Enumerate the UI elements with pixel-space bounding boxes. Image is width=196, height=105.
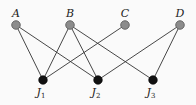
edge-B-J1 — [43, 25, 70, 80]
node-C — [121, 21, 130, 30]
edge-C-J1 — [43, 25, 125, 80]
node-D — [176, 21, 185, 30]
node-J1 — [39, 76, 48, 85]
nodes: ABCDJ1J2J3 — [11, 7, 185, 100]
node-label-J3: J3 — [145, 86, 156, 100]
edge-D-J3 — [153, 25, 180, 80]
node-B — [66, 21, 75, 30]
node-A — [12, 21, 21, 30]
node-label-D: D — [175, 7, 185, 20]
node-label-C: C — [121, 7, 130, 20]
node-label-B: B — [65, 7, 74, 20]
node-label-J2: J2 — [90, 86, 101, 100]
bipartite-graph: ABCDJ1J2J3 — [0, 0, 196, 105]
edge-A-J1 — [16, 25, 43, 80]
node-label-A: A — [11, 7, 20, 20]
node-label-J1: J1 — [35, 86, 46, 100]
edge-B-J3 — [70, 25, 153, 80]
node-J3 — [149, 76, 158, 85]
edge-D-J2 — [98, 25, 180, 80]
edges — [16, 25, 180, 80]
node-J2 — [94, 76, 103, 85]
